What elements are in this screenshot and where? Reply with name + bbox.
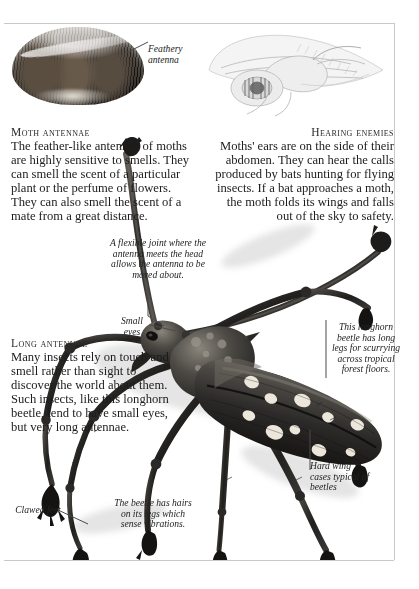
- section-body: The feather-like antennae of moths are h…: [11, 139, 199, 224]
- caption-hard-wing-cases: Hard wing cases typical of beetles: [310, 461, 374, 493]
- section-body: Many insects rely on touch and smell rat…: [11, 350, 171, 435]
- caption-leg-hairs: The beetle has hairs on its legs which s…: [112, 498, 194, 530]
- section-heading: Moth antennae: [11, 126, 199, 138]
- section-long-antennae: Long antennae Many insects rely on touch…: [11, 337, 171, 435]
- section-heading: Long antennae: [11, 337, 171, 349]
- caption-feathery-antenna: Feathery antenna: [148, 44, 210, 65]
- book-page: Moth antennae The feather-like antennae …: [0, 0, 419, 589]
- section-heading: Hearing enemies: [213, 126, 394, 138]
- leader-line-longhorn-legs: [322, 320, 330, 378]
- section-moth-antennae: Moth antennae The feather-like antennae …: [11, 126, 199, 224]
- caption-small-eyes: Small eyes: [112, 316, 152, 337]
- section-body: Moths' ears are on the side of their abd…: [213, 139, 394, 224]
- leader-line-clawed-feet: [58, 506, 92, 528]
- caption-flexible-joint: A flexible joint where the antenna meets…: [110, 238, 206, 280]
- caption-clawed-feet: Clawed feet: [14, 505, 62, 516]
- leader-line-small-eyes: [150, 322, 180, 334]
- page-rule-top: [4, 23, 394, 24]
- section-hearing-enemies: Hearing enemies Moths' ears are on the s…: [213, 126, 394, 224]
- page-rule-bottom: [4, 560, 394, 561]
- moth-illustration: [205, 26, 391, 118]
- caption-longhorn-legs: This longhorn beetle has long legs for s…: [330, 322, 402, 375]
